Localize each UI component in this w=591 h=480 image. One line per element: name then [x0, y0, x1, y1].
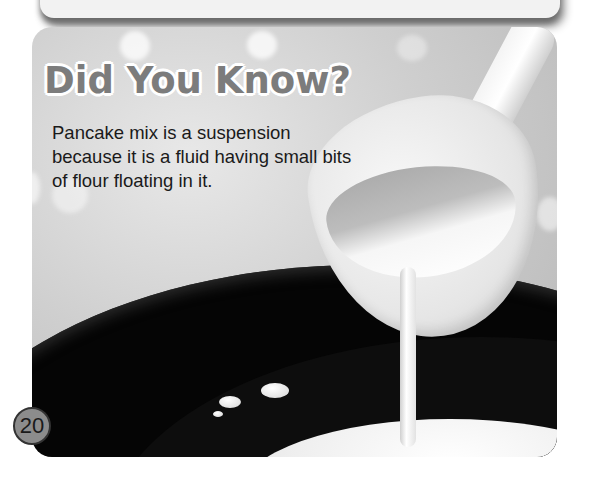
- bokeh-light: [397, 35, 427, 61]
- bokeh-light: [247, 31, 277, 59]
- bokeh-light: [537, 197, 557, 231]
- page-number-badge: 20: [13, 407, 51, 445]
- top-frame-box: [40, 0, 560, 18]
- batter-drop: [261, 383, 289, 398]
- batter-stream: [400, 267, 416, 447]
- fact-text: Pancake mix is a suspension because it i…: [52, 121, 352, 193]
- pancake-batter-photo: Did You Know? Pancake mix is a suspensio…: [32, 27, 557, 457]
- batter-drop: [213, 411, 223, 417]
- bokeh-light: [32, 172, 40, 204]
- did-you-know-title: Did You Know?: [44, 59, 351, 102]
- bokeh-light: [120, 31, 150, 61]
- batter-drop: [219, 396, 241, 408]
